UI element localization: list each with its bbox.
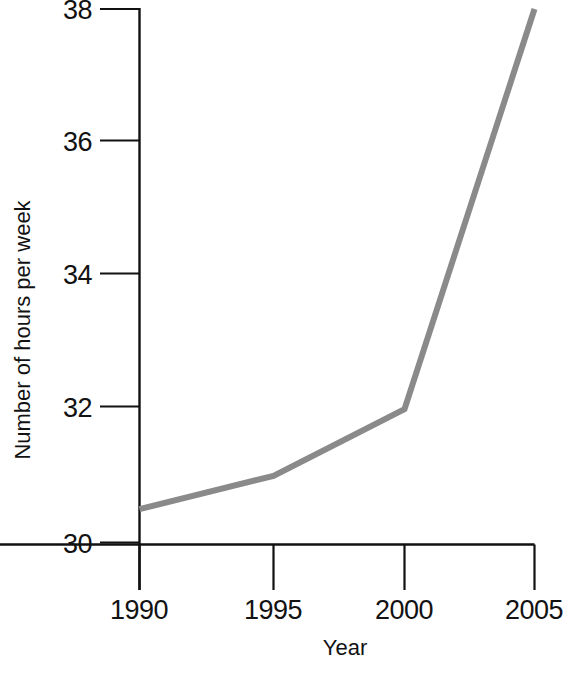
y-tick-label-36: 36 [63,127,92,157]
chart-canvas: 38 36 34 32 30 1990 1995 2000 2005 Numbe… [0,0,577,680]
y-axis-ticks [100,9,140,543]
line-chart: 38 36 34 32 30 1990 1995 2000 2005 Numbe… [0,0,577,680]
y-tick-label-30: 30 [63,529,92,559]
x-axis-tick-labels: 1990 1995 2000 2005 [110,595,563,625]
x-axis-title: Year [323,635,367,660]
y-tick-label-32: 32 [63,393,92,423]
x-tick-label-1990: 1990 [110,595,168,625]
x-tick-label-2005: 2005 [505,595,563,625]
y-axis-tick-labels: 38 36 34 32 30 [63,0,93,559]
y-tick-label-38: 38 [63,0,92,25]
x-tick-label-2000: 2000 [375,595,433,625]
x-axis-ticks [140,545,535,591]
data-series-line [140,9,535,509]
x-tick-label-1995: 1995 [244,595,302,625]
y-tick-label-34: 34 [63,260,93,290]
y-axis-title: Number of hours per week [10,199,35,459]
